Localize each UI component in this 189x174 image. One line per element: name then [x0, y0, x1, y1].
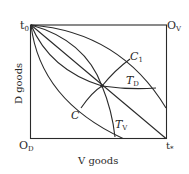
x-axis-label: V goods	[77, 155, 118, 166]
svg-text:TD: TD	[126, 74, 139, 88]
label-ov: O	[167, 19, 176, 32]
upper-outer-curve	[31, 25, 166, 108]
svg-text:OV: OV	[167, 19, 182, 33]
label-od: O	[19, 139, 28, 152]
contract-curve	[81, 59, 130, 108]
svg-text:t0: t0	[20, 19, 29, 33]
svg-text:C1: C1	[130, 50, 143, 64]
intersection-point	[100, 84, 103, 87]
svg-text:TV: TV	[115, 118, 128, 132]
label-c: C	[71, 109, 80, 122]
svg-text:t*: t*	[166, 140, 174, 153]
y-axis-label: D goods	[13, 63, 24, 104]
edgeworth-box-diagram: t0 OV OD t* C1 C TD TV D goods V goods	[0, 0, 189, 174]
svg-text:OD: OD	[19, 139, 34, 153]
